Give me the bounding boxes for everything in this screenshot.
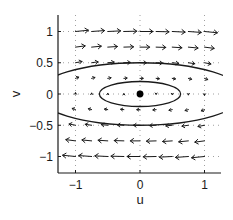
- field-arrow-shaft: [92, 31, 105, 32]
- x-tick-label: −1: [69, 178, 83, 192]
- x-axis-label: u: [136, 192, 143, 207]
- x-tick-label: 1: [201, 178, 208, 192]
- field-arrow-shaft: [79, 156, 92, 157]
- field-arrow-shaft: [172, 47, 182, 48]
- equilibrium-point: [137, 91, 144, 98]
- phase-portrait-figure: −10110.50−0.5−1 u v: [0, 0, 233, 220]
- field-arrow-shaft: [163, 141, 173, 142]
- field-arrow-shaft: [108, 47, 118, 48]
- y-axis-label: v: [8, 90, 23, 97]
- field-arrow-head: [171, 93, 173, 94]
- y-tick-label: −0.5: [29, 119, 53, 133]
- field-arrow-shaft: [108, 31, 121, 32]
- field-arrow-shaft: [188, 32, 201, 33]
- y-tick-label: 1: [46, 25, 53, 39]
- phase-portrait-plot: −10110.50−0.5−1 u v: [0, 0, 233, 220]
- field-arrow-head: [155, 93, 157, 94]
- field-arrow-shaft: [172, 32, 185, 33]
- field-arrow-shaft: [98, 140, 108, 141]
- field-arrow-shaft: [95, 156, 108, 157]
- x-tick-label: 0: [137, 178, 144, 192]
- field-arrow-shaft: [175, 157, 188, 158]
- y-tick-label: −1: [39, 150, 53, 164]
- field-arrow-head: [107, 93, 109, 94]
- y-tick-label: 0.5: [36, 56, 53, 70]
- tick-labels: −10110.50−0.5−1: [29, 25, 208, 192]
- field-arrow-head: [123, 94, 125, 95]
- y-tick-label: 0: [46, 88, 53, 102]
- field-arrow-shaft: [159, 157, 172, 158]
